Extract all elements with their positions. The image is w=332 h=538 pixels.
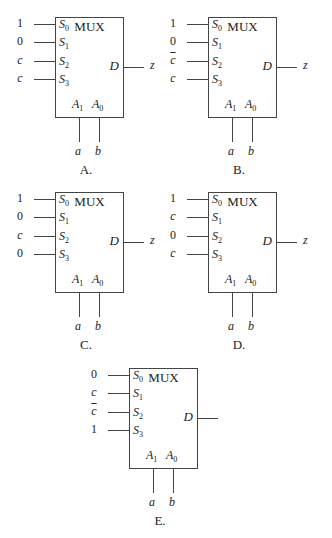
mux-diagram-b: MUXS0S1S2S3D A1 A0 10cc z a b B.: [153, 0, 313, 170]
input-value: 0: [14, 209, 26, 224]
mux-diagram-e: MUXS0S1S2S3D A1 A0 0cc1 a b E.: [74, 351, 234, 521]
mux-box: MUXS0S1S2S3D A1 A0: [129, 368, 198, 469]
address-label-a0: A0: [245, 272, 256, 288]
address-label-a1: A1: [225, 272, 236, 288]
address-wire-b: [252, 293, 253, 317]
input-wire: [187, 24, 208, 25]
address-input-a: a: [75, 144, 81, 159]
input-wire: [187, 217, 208, 218]
mux-box: MUXS0S1S2S3D A1 A0: [55, 17, 124, 118]
input-value: c: [167, 71, 179, 86]
input-wire: [34, 254, 55, 255]
output-wire: [198, 418, 218, 419]
input-value: c: [14, 53, 26, 68]
address-label-a1: A1: [146, 448, 157, 464]
address-wire-a: [232, 118, 233, 142]
input-wire: [187, 199, 208, 200]
select-input-label: S2: [212, 54, 222, 70]
output-label: z: [303, 233, 308, 248]
data-output-label: D: [110, 233, 119, 249]
input-wire: [34, 42, 55, 43]
input-value: c: [167, 246, 179, 261]
address-wire-a: [232, 293, 233, 317]
select-input-label: S1: [59, 35, 69, 51]
select-input-label: S0: [59, 192, 69, 208]
address-wire-b: [252, 118, 253, 142]
address-input-b: b: [95, 319, 101, 334]
output-wire: [277, 67, 297, 68]
input-wire: [187, 61, 208, 62]
input-value: 1: [14, 16, 26, 31]
input-wire: [108, 430, 129, 431]
select-input-label: S2: [59, 229, 69, 245]
select-input-label: S3: [133, 423, 143, 439]
option-caption: E.: [145, 513, 175, 529]
input-wire: [34, 79, 55, 80]
address-wire-a: [153, 469, 154, 493]
address-label-a0: A0: [245, 97, 256, 113]
address-input-a: a: [228, 319, 234, 334]
input-wire: [108, 393, 129, 394]
mux-diagram-d: MUXS0S1S2S3D A1 A0 1c0c z a b D.: [153, 175, 313, 345]
address-input-b: b: [248, 144, 254, 159]
input-wire: [34, 236, 55, 237]
select-input-label: S3: [212, 72, 222, 88]
select-input-label: S2: [212, 229, 222, 245]
address-label-a1: A1: [225, 97, 236, 113]
select-input-label: S1: [212, 210, 222, 226]
input-value: 1: [14, 191, 26, 206]
mux-box: MUXS0S1S2S3D A1 A0: [208, 17, 277, 118]
select-input-label: S3: [59, 72, 69, 88]
mux-diagram-c: MUXS0S1S2S3D A1 A0 10c0 z a b C.: [0, 175, 160, 345]
select-input-label: S0: [133, 368, 143, 384]
select-input-label: S3: [59, 247, 69, 263]
mux-box: MUXS0S1S2S3D A1 A0: [55, 192, 124, 293]
address-input-a: a: [228, 144, 234, 159]
mux-diagram-a: MUXS0S1S2S3D A1 A0 10cc z a b A.: [0, 0, 160, 170]
input-value: 1: [88, 422, 100, 437]
input-value: 0: [14, 34, 26, 49]
data-output-label: D: [263, 233, 272, 249]
address-wire-b: [173, 469, 174, 493]
address-input-b: b: [248, 319, 254, 334]
address-input-a: a: [75, 319, 81, 334]
address-input-a: a: [149, 495, 155, 510]
address-input-b: b: [95, 144, 101, 159]
input-value: 0: [167, 228, 179, 243]
input-value: c: [88, 385, 100, 400]
input-value: 0: [14, 246, 26, 261]
input-wire: [187, 42, 208, 43]
address-wire-b: [99, 118, 100, 142]
input-wire: [108, 412, 129, 413]
input-value: 1: [167, 191, 179, 206]
input-wire: [34, 217, 55, 218]
input-wire: [187, 236, 208, 237]
select-input-label: S0: [212, 192, 222, 208]
mux-box: MUXS0S1S2S3D A1 A0: [208, 192, 277, 293]
input-value: c: [88, 404, 100, 419]
input-value: c: [167, 209, 179, 224]
select-input-label: S3: [212, 247, 222, 263]
output-wire: [124, 242, 144, 243]
input-wire: [108, 375, 129, 376]
output-wire: [124, 67, 144, 68]
select-input-label: S0: [59, 17, 69, 33]
select-input-label: S1: [212, 35, 222, 51]
output-label: z: [303, 58, 308, 73]
select-input-label: S2: [59, 54, 69, 70]
address-label-a0: A0: [92, 97, 103, 113]
address-label-a0: A0: [166, 448, 177, 464]
output-wire: [277, 242, 297, 243]
data-output-label: D: [184, 409, 193, 425]
input-value: c: [14, 228, 26, 243]
input-value: c: [14, 71, 26, 86]
select-input-label: S0: [212, 17, 222, 33]
data-output-label: D: [110, 58, 119, 74]
address-label-a1: A1: [72, 272, 83, 288]
address-label-a1: A1: [72, 97, 83, 113]
input-wire: [187, 79, 208, 80]
input-wire: [34, 24, 55, 25]
select-input-label: S1: [59, 210, 69, 226]
input-value: c: [167, 53, 179, 68]
address-wire-a: [79, 293, 80, 317]
